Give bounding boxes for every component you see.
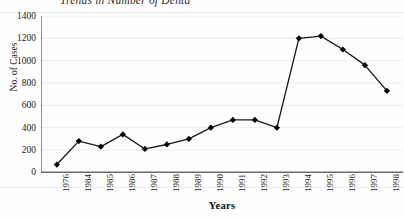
chart-figure: Trends in Number of Denta No. of Cases 1… [0, 0, 404, 217]
data-point-marker [252, 117, 258, 123]
scan-artifact [0, 12, 404, 13]
data-point-marker [296, 35, 302, 41]
x-tick-label: 1995 [325, 174, 335, 192]
y-tick-label: 0 [31, 167, 36, 177]
x-tick-label: 1990 [215, 174, 225, 192]
y-axis-tick-labels: 1400120010008006004002000 [0, 16, 36, 173]
x-axis-tick-labels: 1976198419851986198719881989199019911992… [41, 174, 403, 200]
data-point-marker [164, 141, 170, 147]
data-point-marker [230, 117, 236, 123]
x-tick-label: 1976 [61, 174, 71, 192]
x-tick-label: 1985 [105, 174, 115, 192]
y-tick-label: 600 [22, 100, 36, 110]
x-tick-label: 1986 [127, 174, 137, 192]
chart-title: Trends in Number of Denta [60, 0, 190, 6]
y-tick-label: 1400 [17, 11, 36, 21]
x-axis-title: Years [41, 200, 403, 211]
plot-area [41, 16, 403, 173]
data-point-markers [54, 33, 390, 168]
y-tick-label: 400 [22, 123, 36, 133]
x-tick-label: 1994 [303, 174, 313, 192]
data-point-marker [274, 125, 280, 131]
y-tick-label: 1200 [17, 33, 36, 43]
x-tick-label: 1996 [347, 174, 357, 192]
x-tick-label: 1991 [237, 174, 247, 192]
x-tick-label: 1993 [281, 174, 291, 192]
x-tick-label: 1988 [171, 174, 181, 192]
x-tick-label: 1984 [83, 174, 93, 192]
y-tick-label: 200 [22, 145, 36, 155]
data-point-marker [208, 125, 214, 131]
y-tick-label: 1000 [17, 56, 36, 66]
x-tick-label: 1987 [149, 174, 159, 192]
x-tick-label: 1989 [193, 174, 203, 192]
gridlines [42, 16, 403, 150]
data-point-marker [98, 144, 104, 150]
data-series-line [57, 36, 387, 164]
x-tick-label: 1992 [259, 174, 269, 192]
line-chart-svg [41, 16, 403, 173]
y-tick-label: 800 [22, 78, 36, 88]
data-point-marker [186, 136, 192, 142]
x-tick-label: 1998 [391, 174, 401, 192]
x-tick-label: 1997 [369, 174, 379, 192]
